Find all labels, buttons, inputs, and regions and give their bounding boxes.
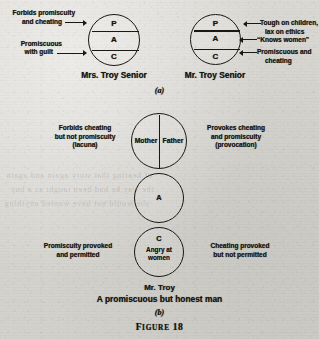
child-circle-letter: C: [135, 235, 183, 243]
parent-right-annotation-line3: (provocation): [193, 141, 279, 149]
mrs-annotation-parent-line1: Forbids promiscuity: [0, 9, 75, 17]
mr-annotation-child-line1: Promiscuous and: [257, 48, 319, 56]
mr-troy-senior-pac-circle: P A C: [190, 14, 241, 65]
mrs-pac-divider-bottom: [92, 50, 139, 52]
mrs-troy-senior-pac-circle: P A C: [88, 14, 140, 66]
mrs-segment-adult-letter: A: [89, 35, 139, 44]
adult-circle-letter: A: [135, 194, 183, 202]
mr-arrow-to-child: [243, 52, 257, 53]
child-left-annotation-line1: Promiscuity provoked: [30, 242, 126, 250]
mr-pac-divider-bottom: [194, 49, 240, 51]
adult-circle: A: [134, 173, 184, 223]
mrs-arrow-to-child: [57, 53, 83, 54]
child-circle-state-line1: Angry at: [135, 246, 183, 253]
child-right-annotation-line2: but not permitted: [192, 251, 288, 259]
mr-annotation-parent-line2: lax on ethics: [265, 28, 319, 36]
mr-troy-senior-name: Mr. Troy Senior: [163, 70, 267, 80]
mr-annotation-child-line2: cheating: [265, 57, 319, 65]
mr-segment-adult-letter: A: [191, 34, 240, 43]
mrs-annotation-parent-line2: and cheating: [0, 18, 62, 26]
child-circle: C Angry at women: [134, 227, 184, 277]
parent-left-annotation-line2: but not promiscuity: [42, 133, 128, 141]
mrs-arrow-to-parent: [65, 22, 83, 23]
mr-segment-parent-letter: P: [191, 19, 240, 28]
figure-18: P A C Forbids promiscuity and cheating P…: [0, 0, 319, 339]
mr-annotation-parent-line1: Tough on children,: [260, 19, 319, 27]
mrs-annotation-child-line2: with guilt: [0, 48, 53, 56]
parent-right-annotation-line1: Provokes cheating: [193, 124, 279, 132]
parent-left-annotation-line1: Forbids cheating: [42, 124, 128, 132]
child-left-annotation-line2: and permitted: [30, 251, 126, 259]
mrs-segment-child-letter: C: [89, 52, 139, 61]
mr-troy-name: Mr. Troy: [0, 283, 319, 292]
mrs-annotation-child-line1: Promiscuous: [0, 40, 62, 48]
panel-a-label: (a): [0, 86, 319, 95]
parent-circle-mother-label: Mother: [133, 137, 159, 144]
mrs-pac-divider-top: [92, 31, 139, 33]
parent-left-annotation-line3: (lacuna): [42, 141, 128, 149]
child-right-annotation-line1: Cheating provoked: [192, 242, 288, 250]
mr-arrow-to-adult: [243, 39, 257, 40]
mr-pac-divider-top: [194, 30, 240, 32]
figure-caption: FIGURE 18: [0, 321, 319, 332]
parent-circle-father-label: Father: [160, 137, 186, 144]
mr-troy-tagline: A promiscuous but honest man: [0, 294, 319, 304]
mrs-troy-senior-name: Mrs. Troy Senior: [62, 70, 166, 80]
mrs-segment-parent-letter: P: [89, 19, 139, 28]
parent-circle: Mother Father: [131, 113, 187, 169]
mr-segment-child-letter: C: [191, 52, 240, 61]
child-circle-state-line2: women: [135, 254, 183, 261]
figure-caption-number: 18: [173, 321, 184, 332]
figure-caption-smallcaps: IGURE: [142, 323, 170, 332]
mr-annotation-adult-line1: “Knows women”: [257, 36, 319, 44]
parent-right-annotation-line2: and promiscuity: [193, 133, 279, 141]
panel-b-label: (b): [0, 308, 319, 317]
mr-arrow-to-parent: [247, 23, 261, 24]
